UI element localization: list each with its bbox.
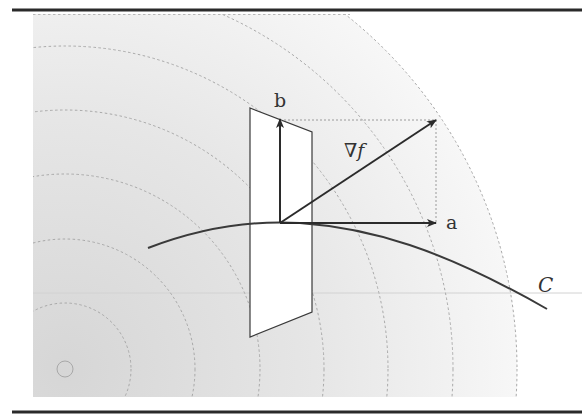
label-a: a xyxy=(446,211,457,233)
label-b: b xyxy=(274,89,286,111)
label-curve-c: C xyxy=(538,273,553,297)
nabla-symbol: ∇ xyxy=(344,139,357,161)
label-grad-f: ∇f xyxy=(344,139,367,161)
gradient-diagram: b ∇f a C xyxy=(0,0,582,419)
